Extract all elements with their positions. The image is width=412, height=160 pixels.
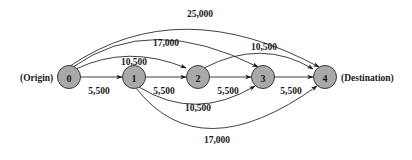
node-0: 0 [58,66,81,89]
edge-label-0-1: 5,500 [88,86,110,96]
edge-label-3-4: 5,500 [280,86,302,96]
edge-label-1-2: 5,500 [153,86,175,96]
destination-label: (Destination) [341,73,394,84]
node-label-4: 4 [323,73,328,84]
origin-label: (Origin) [20,73,53,84]
edge-label-2-4: 10,500 [251,42,277,52]
node-label-2: 2 [196,73,201,84]
node-1: 1 [123,66,146,89]
edge-label-0-3: 17,000 [153,38,179,48]
node-4: 4 [314,66,337,89]
node-label-1: 1 [132,73,137,84]
edge-label-0-4: 25,000 [187,9,213,19]
network-diagram: 5,500 5,500 5,500 5,500 10,500 17,000 25… [0,0,412,160]
node-label-0: 0 [67,73,72,84]
edge-label-1-4: 17,000 [204,135,230,145]
edge-label-1-3: 10,500 [185,103,211,113]
node-label-3: 3 [261,73,266,84]
node-2: 2 [187,66,210,89]
edge-label-2-3: 5,500 [217,86,239,96]
node-3: 3 [252,66,275,89]
